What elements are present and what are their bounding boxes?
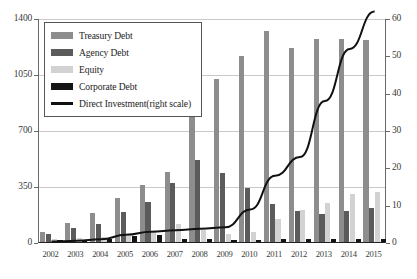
legend-label-agency: Agency Debt xyxy=(79,47,129,58)
y-tick-left-0: 0 xyxy=(0,237,32,247)
y-tick-right-0: 0 xyxy=(392,237,397,247)
y-tick-mark-left xyxy=(34,187,38,188)
y-tick-mark-right xyxy=(386,56,390,57)
y-tick-mark-right xyxy=(386,206,390,207)
legend-swatch-treasury-icon xyxy=(51,32,73,39)
y-tick-right-40: 40 xyxy=(392,88,401,98)
legend-swatch-direct-icon xyxy=(51,102,73,104)
chart-legend: Treasury DebtAgency DebtEquityCorporate … xyxy=(44,22,202,117)
y-tick-mark-right xyxy=(386,94,390,95)
x-tick-2009: 2009 xyxy=(212,249,237,259)
x-tick-2011: 2011 xyxy=(262,249,287,259)
x-tick-2004: 2004 xyxy=(88,249,113,259)
y-tick-mark-left xyxy=(34,19,38,20)
legend-swatch-agency-icon xyxy=(51,49,73,56)
x-tick-2006: 2006 xyxy=(137,249,162,259)
x-tick-2010: 2010 xyxy=(237,249,262,259)
x-tick-2005: 2005 xyxy=(113,249,138,259)
x-tick-2003: 2003 xyxy=(63,249,88,259)
y-tick-mark-left xyxy=(34,75,38,76)
x-tick-2013: 2013 xyxy=(311,249,336,259)
y-tick-right-10: 10 xyxy=(392,200,401,210)
legend-label-equity: Equity xyxy=(79,64,104,75)
legend-item-agency[interactable]: Agency Debt xyxy=(51,44,196,61)
chart-container: 035070010501400 0102030405060 2002200320… xyxy=(0,0,417,279)
x-tick-2007: 2007 xyxy=(162,249,187,259)
y-tick-right-30: 30 xyxy=(392,125,401,135)
y-tick-mark-left xyxy=(34,243,38,244)
legend-item-equity[interactable]: Equity xyxy=(51,61,196,78)
y-tick-mark-left xyxy=(34,131,38,132)
x-tick-2008: 2008 xyxy=(187,249,212,259)
y-tick-right-20: 20 xyxy=(392,162,401,172)
legend-label-corporate: Corporate Debt xyxy=(79,81,137,92)
legend-swatch-equity-icon xyxy=(51,66,73,73)
x-tick-2014: 2014 xyxy=(336,249,361,259)
legend-swatch-corporate-icon xyxy=(51,83,73,90)
y-tick-right-50: 50 xyxy=(392,50,401,60)
legend-label-direct: Direct Investment(right scale) xyxy=(79,98,191,109)
y-tick-left-1050: 1050 xyxy=(0,69,32,79)
y-tick-left-700: 700 xyxy=(0,125,32,135)
x-tick-2012: 2012 xyxy=(287,249,312,259)
y-tick-left-1400: 1400 xyxy=(0,13,32,23)
x-tick-2015: 2015 xyxy=(361,249,386,259)
y-tick-mark-right xyxy=(386,243,390,244)
y-tick-mark-right xyxy=(386,131,390,132)
x-tick-2002: 2002 xyxy=(38,249,63,259)
y-tick-left-350: 350 xyxy=(0,181,32,191)
legend-item-treasury[interactable]: Treasury Debt xyxy=(51,27,196,44)
y-tick-mark-right xyxy=(386,19,390,20)
legend-item-corporate[interactable]: Corporate Debt xyxy=(51,78,196,95)
legend-label-treasury: Treasury Debt xyxy=(79,30,133,41)
y-tick-mark-right xyxy=(386,168,390,169)
y-tick-right-60: 60 xyxy=(392,13,401,23)
legend-item-direct[interactable]: Direct Investment(right scale) xyxy=(51,95,196,112)
